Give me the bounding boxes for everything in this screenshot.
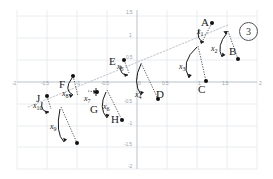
x-tick: -1.5 xyxy=(41,81,49,86)
vector-label-x4: x4 xyxy=(135,91,142,100)
y-tick: 1.5 xyxy=(126,10,132,15)
y-tick: -1.5 xyxy=(124,142,132,147)
point-label-H: H xyxy=(111,114,119,125)
x-tick: -2 xyxy=(12,81,16,86)
y-tick: -1 xyxy=(128,121,132,126)
data-point-B xyxy=(236,57,240,61)
data-point-H xyxy=(120,118,124,122)
vector-label-x6: x6 xyxy=(103,103,110,112)
y-tick: -0.5 xyxy=(124,99,132,104)
y-tick: -2 xyxy=(128,164,132,169)
data-point-A xyxy=(210,21,214,25)
x-tick: 0 xyxy=(138,81,141,86)
point-label-G: G xyxy=(90,104,98,115)
vector-label-x9: x9 xyxy=(50,123,57,132)
point-label-A: A xyxy=(201,17,209,28)
x-tick: 1.5 xyxy=(222,81,228,86)
data-point-K xyxy=(75,141,79,145)
vector-label-x1: x1 xyxy=(197,28,204,37)
point-label-D: D xyxy=(156,89,164,100)
vector-label-x2: x2 xyxy=(211,45,218,54)
y-tick: 0.5 xyxy=(126,55,132,60)
point-label-E: E xyxy=(109,56,116,67)
x-tick: 2 xyxy=(259,81,262,86)
vector-label-x10: x10 xyxy=(33,102,43,111)
x-tick: -0.5 xyxy=(101,81,109,86)
point-label-C: C xyxy=(198,84,205,95)
vector-label-x7: x7 xyxy=(84,95,91,104)
vector-label-x3: x3 xyxy=(179,63,186,72)
vector-label-x5: x5 xyxy=(117,63,124,72)
figure-number-badge: 3 xyxy=(239,22,258,41)
vector-label-x8: x8 xyxy=(62,90,69,99)
data-point-G xyxy=(95,90,99,94)
x-tick: -1 xyxy=(76,81,80,86)
y-tick: 1 xyxy=(129,33,132,38)
data-point-J xyxy=(45,94,49,98)
figure-canvas: -2 -1.5 -1 -0.5 0 0.5 1 1.5 2 1.5 1 0.5 … xyxy=(0,0,273,179)
x-tick: 0.5 xyxy=(162,81,168,86)
point-label-B: B xyxy=(229,46,236,57)
data-point-F xyxy=(71,74,75,78)
